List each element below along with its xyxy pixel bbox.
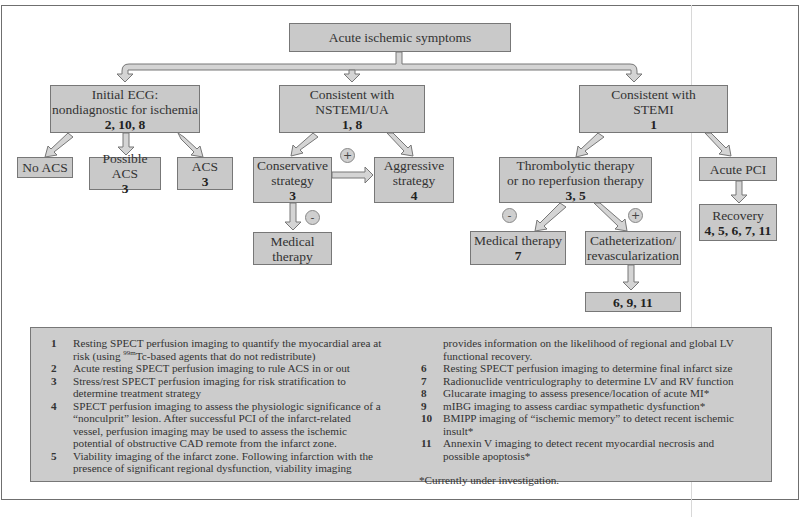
legend-line: provides information on the likelihood o… (443, 337, 734, 349)
legend-left-column: 1 Resting SPECT perfusion imaging to qua… (49, 337, 399, 475)
node-label: Conservative (257, 158, 328, 173)
node-possible-acs: Possible ACS 3 (89, 157, 161, 190)
legend-line: Tc-based agents that do not redistribute… (136, 350, 316, 362)
legend-text: Stress/rest SPECT perfusion imaging for … (73, 375, 399, 400)
arrow-conservative-to-aggressive (332, 167, 373, 183)
legend-item-9: 9 mIBG imaging to assess cardiac sympath… (419, 400, 764, 413)
node-refs: 1 (650, 117, 657, 132)
legend-item-11: 11 Annexin V imaging to detect recent my… (419, 437, 764, 462)
legend-number: 3 (49, 375, 73, 400)
legend-number: 7 (419, 375, 443, 388)
node-catheterization: Catheterization/ revascularization (585, 231, 681, 265)
legend-line: functional recovery. (443, 350, 532, 362)
arrow-to-acs (178, 133, 203, 157)
legend-item-8: 8 Glucarate imaging to assess presence/l… (419, 387, 764, 400)
legend-item-6: 6 Resting SPECT perfusion imaging to det… (419, 362, 764, 375)
legend-line: determine treatment strategy (73, 387, 201, 399)
node-label: Thrombolytic therapy (516, 158, 634, 173)
legend-line: BMIPP imaging of “ischemic memory” to de… (443, 412, 734, 424)
node-label: therapy (272, 249, 312, 264)
legend-text: Annexin V imaging to detect recent myoca… (443, 437, 764, 462)
legend-number: 1 (49, 337, 73, 362)
node-conservative-strategy: Conservative strategy 3 (253, 157, 332, 203)
node-stemi: Consistent with STEMI 1 (579, 85, 728, 133)
legend-line: insult* (443, 425, 473, 437)
legend-text: BMIPP imaging of “ischemic memory” to de… (443, 412, 764, 437)
node-cath-refs: 6, 9, 11 (585, 292, 681, 312)
minus-sign-icon: - (502, 208, 517, 223)
arrow-to-recovery (731, 181, 747, 203)
node-label: STEMI (633, 102, 674, 117)
legend-text: Radionuclide ventriculography to determi… (443, 375, 764, 388)
legend-line: “nonculprit” lesion. After successful PC… (73, 412, 351, 424)
legend-line: risk (using (73, 350, 123, 362)
node-acute-pci: Acute PCI (699, 157, 777, 181)
legend-line: potential of obstructive CAD remote from… (73, 437, 337, 449)
legend-text: Resting SPECT perfusion imaging to deter… (443, 362, 764, 375)
legend-number: 5 (49, 450, 73, 475)
node-label: or no reperfusion therapy (507, 173, 644, 188)
legend-number: 4 (49, 400, 73, 450)
legend-text: mIBG imaging to assess cardiac sympathet… (443, 400, 764, 413)
plus-sign-icon: + (340, 148, 355, 163)
arrow-to-cath (594, 203, 627, 231)
legend-item-5: 5 Viability imaging of the infarct zone.… (49, 450, 399, 475)
legend-right-column: provides information on the likelihood o… (419, 337, 764, 487)
node-acs: ACS 3 (177, 157, 233, 190)
legend-item-2: 2 Acute resting SPECT perfusion imaging … (49, 362, 399, 375)
node-recovery: Recovery 4, 5, 6, 7, 11 (699, 204, 777, 241)
node-label: Medical (270, 234, 314, 249)
legend-panel: 1 Resting SPECT perfusion imaging to qua… (30, 327, 772, 482)
arrow-to-no-acs (45, 133, 73, 157)
node-refs: 1, 8 (342, 117, 362, 132)
node-refs: 4, 5, 6, 7, 11 (705, 223, 772, 238)
legend-footnote: *Currently under investigation. (419, 474, 764, 487)
legend-number: 6 (419, 362, 443, 375)
legend-number: 10 (419, 412, 443, 437)
node-label: nondiagnostic for ischemia (52, 102, 198, 117)
node-refs: 4 (411, 188, 418, 203)
node-acute-ischemic-symptoms: Acute ischemic symptoms (289, 23, 511, 52)
node-label: Consistent with (310, 87, 394, 102)
arrow-to-cath-refs (623, 265, 639, 290)
legend-line: possible apoptosis* (443, 450, 530, 462)
node-medical-therapy-nstemi: Medical therapy (253, 232, 332, 265)
legend-text: Acute resting SPECT perfusion imaging to… (73, 362, 399, 375)
arrow-to-nstemi (344, 70, 360, 82)
node-initial-ecg: Initial ECG: nondiagnostic for ischemia … (50, 85, 200, 133)
node-refs: 3 (122, 181, 129, 196)
node-label: Catheterization/ (590, 233, 676, 248)
superscript: 99m (123, 349, 135, 357)
plus-sign-icon: + (628, 208, 643, 223)
node-label: Initial ECG: (92, 87, 158, 102)
node-label: Recovery (712, 208, 764, 223)
node-refs: 2, 10, 8 (105, 117, 146, 132)
node-label: ACS (192, 159, 218, 174)
legend-line: Resting SPECT perfusion imaging to quant… (73, 337, 381, 349)
legend-text: Resting SPECT perfusion imaging to quant… (73, 337, 399, 362)
minus-sign-icon: - (305, 210, 320, 225)
legend-line: Stress/rest SPECT perfusion imaging for … (73, 375, 346, 387)
node-label: Consistent with (611, 87, 695, 102)
node-medical-therapy-stemi: Medical therapy 7 (470, 231, 566, 265)
legend-number: 9 (419, 400, 443, 413)
node-refs: 3 (202, 174, 209, 189)
legend-line: presence of significant regional dysfunc… (73, 462, 352, 474)
node-nstemi: Consistent with NSTEMI/UA 1, 8 (279, 85, 425, 133)
node-thrombolytic-therapy: Thrombolytic therapy or no reperfusion t… (499, 157, 652, 203)
legend-number: 8 (419, 387, 443, 400)
node-label: NSTEMI/UA (315, 102, 389, 117)
legend-text: Viability imaging of the infarct zone. F… (73, 450, 399, 475)
legend-number: 2 (49, 362, 73, 375)
legend-line: SPECT perfusion imaging to assess the ph… (73, 400, 381, 412)
arrow-to-medical-therapy (285, 203, 301, 230)
arrow-to-thrombolytic (576, 133, 604, 157)
legend-line: Annexin V imaging to detect recent myoca… (443, 437, 714, 449)
arrow-to-aggressive (387, 133, 413, 156)
node-label: Acute PCI (710, 162, 767, 177)
legend-item-3: 3 Stress/rest SPECT perfusion imaging fo… (49, 375, 399, 400)
node-label: Acute ischemic symptoms (329, 30, 471, 45)
arrow-to-acute-pci (705, 133, 731, 156)
node-label: No ACS (22, 160, 67, 175)
legend-item-7: 7 Radionuclide ventriculography to deter… (419, 375, 764, 388)
